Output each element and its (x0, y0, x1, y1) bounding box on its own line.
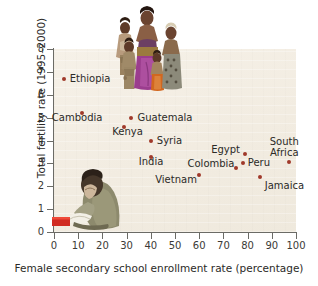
y-tick-2 (47, 186, 53, 187)
data-point-label: Egypt (211, 144, 240, 155)
x-tick-label-0: 0 (41, 241, 67, 251)
data-point-label: SouthAfrica (270, 136, 299, 158)
y-tick-3 (47, 163, 53, 164)
data-point[interactable] (149, 139, 153, 143)
x-tick-label-100: 100 (283, 241, 309, 251)
y-tick-6 (47, 95, 53, 96)
data-point-label: Vietnam (155, 174, 197, 185)
x-tick-label-40: 40 (138, 241, 164, 251)
data-point-label: Guatemala (137, 112, 192, 123)
x-tick-80 (248, 233, 249, 239)
x-tick-20 (102, 233, 103, 239)
x-tick-label-80: 80 (235, 241, 261, 251)
data-point[interactable] (62, 77, 66, 81)
x-axis-title: Female secondary school enrollment rate … (0, 262, 318, 274)
x-tick-0 (54, 233, 55, 239)
data-point[interactable] (287, 160, 291, 164)
data-point-label: Cambodia (52, 112, 103, 123)
y-tick-label-1: 1 (24, 204, 44, 214)
y-tick-0 (47, 232, 53, 233)
x-tick-90 (272, 233, 273, 239)
x-tick-10 (78, 233, 79, 239)
x-tick-label-30: 30 (114, 241, 140, 251)
x-tick-label-50: 50 (162, 241, 188, 251)
x-tick-label-10: 10 (65, 241, 91, 251)
y-axis-title: Total fertility rate (1995–2000) (35, 3, 47, 193)
x-tick-30 (127, 233, 128, 239)
data-point-label: Syria (157, 135, 182, 146)
x-tick-label-60: 60 (186, 241, 212, 251)
data-point-label: India (139, 156, 164, 167)
x-tick-label-20: 20 (89, 241, 115, 251)
x-tick-label-70: 70 (210, 241, 236, 251)
y-tick-1 (47, 209, 53, 210)
y-tick-8 (47, 49, 53, 50)
x-tick-60 (199, 233, 200, 239)
data-point-label: Ethiopia (70, 73, 111, 84)
data-point-label: Jamaica (265, 180, 304, 191)
data-point-label: Kenya (112, 126, 143, 137)
x-tick-label-90: 90 (259, 241, 285, 251)
x-tick-70 (223, 233, 224, 239)
y-tick-7 (47, 72, 53, 73)
fertility-enrollment-scatter-chart: 012345678 0102030405060708090100 Total f… (0, 0, 318, 286)
y-tick-4 (47, 141, 53, 142)
data-point[interactable] (197, 173, 201, 177)
x-tick-50 (175, 233, 176, 239)
data-point-label: Peru (248, 157, 270, 168)
x-tick-40 (151, 233, 152, 239)
data-point-label: Colombia (188, 158, 235, 169)
y-axis-line (53, 48, 54, 233)
data-point[interactable] (258, 175, 262, 179)
x-tick-100 (296, 233, 297, 239)
y-tick-label-0: 0 (24, 227, 44, 237)
